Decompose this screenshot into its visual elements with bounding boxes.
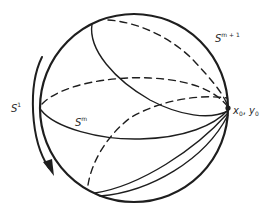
sphere-diagram: Sm + 1 Sm S1 x0, y0 <box>0 0 270 215</box>
arrowhead-icon <box>43 159 54 176</box>
tilted-circle-front-solid <box>92 24 228 116</box>
label-outer-sphere: Sm + 1 <box>215 31 240 44</box>
base-point-marker <box>225 105 230 110</box>
label-circle-action: S1 <box>11 101 21 114</box>
equator-back-dashed <box>42 78 228 107</box>
equator-front-solid <box>41 110 228 139</box>
lower-circle-back-dashed <box>88 97 227 185</box>
outer-sphere-outline <box>40 14 228 202</box>
label-inner-sphere: Sm <box>75 115 87 128</box>
label-base-point: x0, y0 <box>232 105 259 117</box>
